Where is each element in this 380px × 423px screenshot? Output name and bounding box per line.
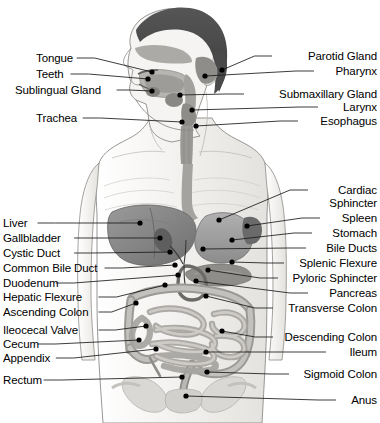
label-ascending-colon: Ascending Colon: [3, 306, 88, 318]
leader-larynx: [192, 107, 318, 110]
dot-rectum: [179, 374, 184, 379]
label-hepatic-flexure: Hepatic Flexure: [3, 291, 82, 303]
label-cecum: Cecum: [3, 338, 39, 350]
label-sublingual-gland: Sublingual Gland: [15, 84, 101, 96]
dot-submaxillary-gland: [177, 92, 182, 97]
label-transverse-colon: Transverse Colon: [277, 302, 377, 314]
label-ileocecal-valve: Ileocecal Valve: [3, 324, 78, 336]
label-larynx: Larynx: [322, 101, 377, 113]
dot-cardiac-sphincter: [216, 217, 221, 222]
digestive-system-diagram: TongueTeethSublingual GlandTracheaLiverG…: [0, 0, 380, 423]
dot-sublingual-gland: [149, 88, 154, 93]
label-pharynx: Pharynx: [318, 65, 377, 77]
dot-cecum: [136, 337, 141, 342]
label-spleen: Spleen: [324, 212, 377, 224]
label-ileum: Ileum: [330, 346, 377, 358]
label-teeth: Teeth: [36, 68, 64, 80]
dot-ascending-colon: [133, 300, 138, 305]
label-rectum: Rectum: [3, 374, 42, 386]
dot-spleen: [244, 223, 249, 228]
dot-pyloric-sphincter: [205, 267, 210, 272]
dot-transverse-colon: [203, 293, 208, 298]
dot-sigmoid-colon: [204, 369, 209, 374]
label-descending-colon: Descending Colon: [277, 331, 377, 343]
dot-common-bile-duct: [172, 262, 177, 267]
dot-pancreas: [193, 278, 198, 283]
dot-stomach: [229, 237, 234, 242]
label-sigmoid-colon: Sigmoid Colon: [293, 368, 377, 380]
dot-anus: [183, 393, 188, 398]
label-gallbladder: Gallbladder: [3, 232, 61, 244]
label-bile-ducts: Bile Ducts: [310, 242, 377, 254]
label-common-bile-duct: Common Bile Duct: [3, 262, 97, 274]
label-parotid-gland: Parotid Gland: [276, 50, 377, 62]
label-stomach: Stomach: [316, 227, 377, 239]
leader-parotid-gland: [222, 56, 272, 70]
dot-appendix: [153, 346, 158, 351]
dot-parotid-gland: [219, 67, 224, 72]
label-cystic-duct: Cystic Duct: [3, 247, 60, 259]
dot-teeth: [145, 76, 150, 81]
dot-hepatic-flexure: [162, 282, 167, 287]
dot-larynx: [189, 107, 194, 112]
label-pyloric-sphincter: Pyloric Sphincter: [282, 272, 377, 284]
label-pancreas: Pancreas: [312, 287, 377, 299]
label-splenic-flexure: Splenic Flexure: [288, 257, 377, 269]
dot-bile-ducts: [200, 246, 205, 251]
label-appendix: Appendix: [3, 352, 50, 364]
dot-descending-colon: [219, 328, 224, 333]
label-trachea: Trachea: [36, 112, 77, 124]
dot-liver: [137, 220, 142, 225]
dot-gallbladder: [157, 235, 162, 240]
label-submaxillary-gland: Submaxillary Gland: [248, 88, 377, 100]
dot-duodenum: [175, 272, 180, 277]
label-liver: Liver: [3, 217, 27, 229]
label-tongue: Tongue: [36, 52, 73, 64]
dot-tongue: [149, 69, 154, 74]
dot-ileum: [203, 349, 208, 354]
label-duodenum: Duodenum: [3, 277, 58, 289]
dot-esophagus: [193, 123, 198, 128]
dot-pharynx: [202, 73, 207, 78]
dot-splenic-flexure: [229, 259, 234, 264]
label-esophagus: Esophagus: [302, 115, 377, 127]
dot-trachea: [179, 119, 184, 124]
dot-cystic-duct: [167, 249, 172, 254]
label-anus: Anus: [340, 394, 377, 406]
dot-ileocecal-valve: [143, 323, 148, 328]
label-cardiac-sphincter: Cardiac Sphincter: [312, 184, 377, 210]
